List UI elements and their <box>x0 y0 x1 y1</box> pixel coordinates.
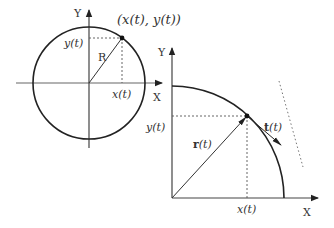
right-quarter-arc <box>172 86 284 198</box>
position-vector <box>172 117 246 198</box>
left-y-axis-label: Y <box>73 7 82 20</box>
tangent-vector-label-rest: (t) <box>269 121 282 134</box>
right-panel: Y X y(t) x(t) r(t) t(t) <box>145 46 318 219</box>
left-x-axis-label: X <box>153 91 161 104</box>
tangent-dotted-line-full <box>220 80 280 160</box>
right-y-axis-label: Y <box>157 46 166 59</box>
left-radius-label: R <box>98 51 107 64</box>
left-point <box>120 36 125 41</box>
tangent-vector-label: t(t) <box>264 121 282 134</box>
position-vector-label: r(t) <box>193 138 212 151</box>
right-point <box>245 114 250 119</box>
position-vector-label-rest: (t) <box>199 138 212 151</box>
left-x-projection-label: x(t) <box>112 88 131 101</box>
left-point-label: (x(t), y(t)) <box>117 12 181 27</box>
left-y-projection-label: y(t) <box>63 37 83 50</box>
right-y-projection-label: y(t) <box>145 121 165 134</box>
right-x-projection-label: x(t) <box>237 203 256 216</box>
tangent-dotted-line <box>279 81 303 167</box>
right-x-axis-label: X <box>303 206 311 219</box>
diagram-canvas: Y X (x(t), y(t)) R y(t) x(t) Y X y(t) x(… <box>0 0 334 228</box>
